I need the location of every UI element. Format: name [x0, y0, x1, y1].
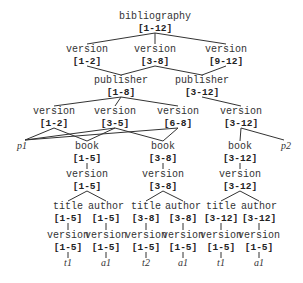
- node-range: [1-2]: [40, 118, 69, 129]
- node-label: publisher: [175, 75, 229, 86]
- node-bv3: version[3-12]: [219, 169, 261, 192]
- node-label: version: [33, 106, 75, 117]
- node-book1: book[1-5]: [73, 141, 102, 164]
- node-pub1: publisher[1-8]: [94, 75, 148, 98]
- node-range: [1-5]: [54, 213, 83, 224]
- node-label: version: [125, 230, 167, 241]
- node-av2: version[1-5]: [162, 230, 204, 253]
- tree-svg: bibliography[1-12]version[1-2]version[3-…: [0, 0, 303, 283]
- node-book2: book[3-8]: [149, 141, 178, 164]
- node-range: [1-2]: [73, 56, 102, 67]
- node-title1: title[1-5]: [53, 201, 83, 224]
- node-range: [3-8]: [141, 56, 170, 67]
- node-label: author: [88, 201, 124, 212]
- node-label: book: [228, 141, 252, 152]
- node-a1b: a1: [178, 257, 188, 268]
- node-range: [3-12]: [223, 181, 257, 192]
- tree-edge: [155, 33, 226, 44]
- node-pv2: version[3-5]: [94, 106, 136, 129]
- node-range: [6-8]: [164, 118, 193, 129]
- tree-edge: [54, 128, 87, 141]
- node-range: [3-12]: [185, 87, 219, 98]
- node-pub2: publisher[3-12]: [175, 75, 229, 98]
- node-label: bibliography: [119, 11, 191, 22]
- node-p1: p1: [16, 140, 27, 151]
- node-range: [1-5]: [92, 213, 121, 224]
- tree-edge: [87, 33, 155, 44]
- node-label: version: [66, 169, 108, 180]
- tree-edge: [202, 97, 241, 106]
- node-range: [1-5]: [132, 242, 161, 253]
- node-v2: version[3-8]: [134, 44, 176, 67]
- node-label: version: [94, 106, 136, 117]
- tree-edge: [68, 191, 87, 201]
- node-range: [3-8]: [132, 213, 161, 224]
- node-bv2: version[3-8]: [142, 169, 184, 192]
- node-tv1: version[1-5]: [47, 230, 89, 253]
- node-label: book: [75, 141, 99, 152]
- node-range: [3-8]: [149, 153, 178, 164]
- node-range: [1-5]: [169, 242, 198, 253]
- tree-edge: [241, 128, 284, 140]
- tree-edge: [240, 191, 259, 201]
- tree-edge: [202, 66, 226, 75]
- node-range: [3-8]: [169, 213, 198, 224]
- tree-edge: [240, 128, 241, 141]
- node-range: [1-5]: [245, 242, 274, 253]
- node-range: [9-12]: [209, 56, 243, 67]
- node-range: [3-12]: [224, 118, 258, 129]
- node-t1b: t1: [217, 257, 225, 268]
- node-label: version: [142, 169, 184, 180]
- node-v1: version[1-2]: [66, 44, 108, 67]
- node-label: version: [205, 44, 247, 55]
- tree-edge: [121, 97, 178, 106]
- node-a1a: a1: [101, 257, 111, 268]
- node-book3: book[3-12]: [223, 141, 257, 164]
- node-label: book: [151, 141, 175, 152]
- node-label: version: [47, 230, 89, 241]
- node-label: version: [134, 44, 176, 55]
- leaf-label: p1: [16, 140, 27, 151]
- node-range: [1-5]: [207, 242, 236, 253]
- node-pv4: version[3-12]: [220, 106, 262, 129]
- node-label: author: [165, 201, 201, 212]
- node-author2: author[3-8]: [165, 201, 201, 224]
- node-label: author: [241, 201, 277, 212]
- node-label: version: [85, 230, 127, 241]
- tree-edge: [146, 191, 163, 201]
- version-tree-diagram: bibliography[1-12]version[1-2]version[3-…: [0, 0, 303, 283]
- node-t1a: t1: [64, 257, 72, 268]
- tree-edge: [163, 128, 178, 141]
- node-label: title: [206, 201, 236, 212]
- node-range: [1-12]: [138, 23, 172, 34]
- node-v3: version[9-12]: [205, 44, 247, 67]
- node-title3: title[3-12]: [204, 201, 238, 224]
- node-label: version: [157, 106, 199, 117]
- node-label: version: [220, 106, 262, 117]
- tree-edge: [87, 66, 121, 75]
- leaf-label: t1: [217, 257, 225, 268]
- node-av1: version[1-5]: [85, 230, 127, 253]
- leaf-label: p2: [280, 140, 291, 151]
- tree-edge: [221, 191, 240, 201]
- node-label: version: [219, 169, 261, 180]
- node-label: version: [238, 230, 280, 241]
- tree-edge: [121, 66, 155, 75]
- node-p2: p2: [280, 140, 291, 151]
- leaf-label: a1: [178, 257, 188, 268]
- tree-edge: [163, 191, 183, 201]
- node-range: [3-5]: [101, 118, 130, 129]
- node-pv3: version[6-8]: [157, 106, 199, 129]
- node-range: [3-12]: [204, 213, 238, 224]
- node-bib: bibliography[1-12]: [119, 11, 191, 34]
- node-pv1: version[1-2]: [33, 106, 75, 129]
- tree-edge: [54, 97, 121, 106]
- node-range: [1-8]: [107, 87, 136, 98]
- node-bv1: version[1-5]: [66, 169, 108, 192]
- node-label: title: [131, 201, 161, 212]
- leaf-label: t1: [64, 257, 72, 268]
- node-range: [1-5]: [73, 153, 102, 164]
- node-range: [3-12]: [223, 153, 257, 164]
- tree-edge: [115, 97, 121, 106]
- node-label: version: [66, 44, 108, 55]
